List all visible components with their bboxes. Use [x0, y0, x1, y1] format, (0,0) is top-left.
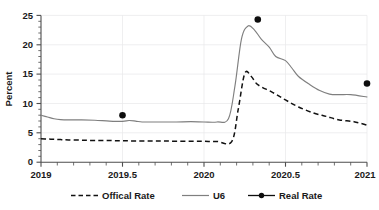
y-tick-label: 5 — [28, 127, 34, 138]
gridlines-vertical — [123, 15, 368, 162]
y-tick-label: 20 — [22, 39, 33, 50]
real-rate-data-point — [119, 112, 126, 119]
legend-label-real-rate: Real Rate — [279, 190, 322, 201]
y-axis-tick-labels: 0 5 10 15 20 25 — [22, 10, 33, 168]
chart-legend: Offical Rate U6 Real Rate — [71, 190, 322, 201]
unemployment-rate-chart: 0 5 10 15 20 25 2019 2019.5 2020 2020.5 … — [0, 0, 379, 210]
legend-marker-real-rate-dot — [259, 193, 264, 198]
x-tick-label: 2021 — [354, 169, 376, 180]
x-tick-label: 2019.5 — [108, 169, 138, 180]
x-tick-label: 2020 — [193, 169, 214, 180]
y-tick-label: 15 — [22, 68, 33, 79]
chart-plot-area: 0 5 10 15 20 25 2019 2019.5 2020 2020.5 … — [0, 0, 379, 210]
real-rate-data-point — [254, 16, 261, 23]
legend-label-u6: U6 — [213, 190, 225, 201]
x-tick-label: 2020.5 — [271, 169, 301, 180]
real-rate-data-point — [364, 80, 371, 87]
y-tick-label: 0 — [28, 156, 33, 167]
y-axis-title: Percent — [3, 71, 14, 107]
y-tick-label: 25 — [22, 10, 33, 21]
x-axis-tick-labels: 2019 2019.5 2020 2020.5 2021 — [30, 169, 376, 180]
legend-label-offical-rate: Offical Rate — [102, 190, 155, 201]
y-tick-label: 10 — [22, 98, 33, 109]
y-axis-major-ticks — [37, 15, 42, 162]
x-tick-label: 2019 — [30, 169, 51, 180]
